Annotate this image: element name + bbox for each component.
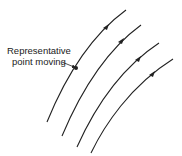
- phase-trajectory-diagram: Representative point moving: [0, 0, 182, 156]
- direction-arrow-icon: [118, 38, 124, 44]
- trajectory-curve-3: [77, 43, 159, 147]
- representative-point: [74, 66, 78, 70]
- trajectories-canvas: [0, 0, 182, 156]
- label-line-2: point moving: [7, 56, 71, 67]
- trajectory-curve-4: [91, 59, 173, 153]
- representative-point-label: Representative point moving: [7, 45, 71, 67]
- label-line-1: Representative: [7, 45, 71, 56]
- trajectory-curve-2: [62, 25, 141, 136]
